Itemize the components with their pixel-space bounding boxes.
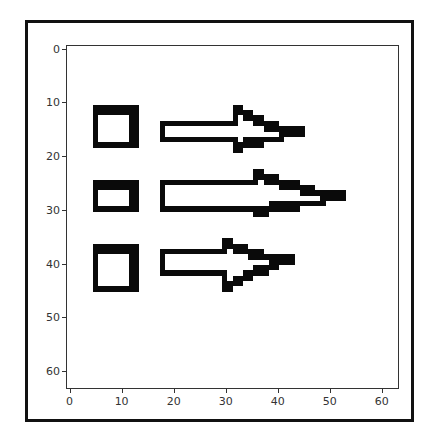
y-tick-label: 60 xyxy=(46,365,60,378)
y-tick xyxy=(62,156,67,157)
y-tick xyxy=(62,317,67,318)
x-tick xyxy=(122,388,123,393)
x-tick-label: 40 xyxy=(271,395,285,408)
x-tick-label: 0 xyxy=(66,395,73,408)
x-tick-label: 60 xyxy=(375,395,389,408)
y-tick-label: 50 xyxy=(46,311,60,324)
x-tick-label: 10 xyxy=(115,395,129,408)
x-tick-label: 30 xyxy=(219,395,233,408)
x-tick xyxy=(330,388,331,393)
image-pixel-grid xyxy=(67,46,398,388)
x-tick-label: 20 xyxy=(167,395,181,408)
x-tick xyxy=(174,388,175,393)
y-tick-label: 30 xyxy=(46,203,60,216)
plot-axes: 01020304050600102030405060 xyxy=(66,45,399,389)
y-tick xyxy=(62,49,67,50)
y-tick-label: 40 xyxy=(46,257,60,270)
x-tick xyxy=(226,388,227,393)
y-tick xyxy=(62,371,67,372)
x-tick-label: 50 xyxy=(323,395,337,408)
y-tick xyxy=(62,210,67,211)
x-tick xyxy=(70,388,71,393)
y-tick xyxy=(62,264,67,265)
y-tick-label: 20 xyxy=(46,150,60,163)
y-tick-label: 10 xyxy=(46,96,60,109)
y-tick xyxy=(62,102,67,103)
y-tick-label: 0 xyxy=(53,42,60,55)
x-tick xyxy=(382,388,383,393)
x-tick xyxy=(278,388,279,393)
